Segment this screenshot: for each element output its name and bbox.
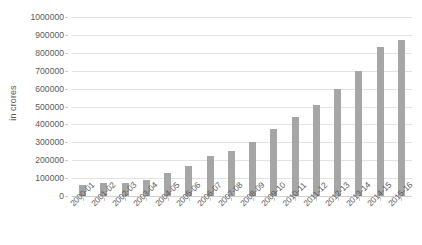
y-axis-tick-mark <box>65 160 68 161</box>
bar-slot <box>200 17 221 196</box>
bar-slot <box>391 17 412 196</box>
x-axis-tick-labels: 2000-012001-022002-032003-042004-052005-… <box>72 198 412 245</box>
bar-slot <box>178 17 199 196</box>
bar <box>334 89 341 196</box>
y-axis-tick-mark <box>65 71 68 72</box>
bar-slot <box>157 17 178 196</box>
bar-slot <box>327 17 348 196</box>
y-axis-tick-label: 500000 <box>35 102 64 112</box>
y-axis-tick-mark <box>65 142 68 143</box>
x-axis-slot: 2000-01 <box>72 198 93 245</box>
y-axis-tick-label: 700000 <box>35 66 64 76</box>
x-axis-slot: 2003-04 <box>136 198 157 245</box>
y-axis-tick-label: 900000 <box>35 30 64 40</box>
y-axis-tick-mark <box>65 17 68 18</box>
x-axis-slot: 2004-05 <box>157 198 178 245</box>
y-axis-tick-mark <box>65 107 68 108</box>
y-axis-tick-mark <box>65 178 68 179</box>
x-axis-slot: 2005-06 <box>178 198 199 245</box>
y-axis-tick-label: 600000 <box>35 84 64 94</box>
y-axis-tick-label: 400000 <box>35 119 64 129</box>
bar-series <box>72 17 412 196</box>
y-axis-tick-labels: 0100000200000300000400000500000600000700… <box>0 17 68 196</box>
y-axis-tick-label: 100000 <box>35 173 64 183</box>
bar-slot <box>72 17 93 196</box>
bar <box>377 47 384 196</box>
y-axis-tick-label: 1000000 <box>31 12 64 22</box>
y-axis-tick-label: 800000 <box>35 48 64 58</box>
x-axis-slot: 2009-10 <box>263 198 284 245</box>
y-axis-tick-mark <box>65 35 68 36</box>
x-axis-slot: 2013-14 <box>348 198 369 245</box>
x-axis-slot: 2012-13 <box>327 198 348 245</box>
y-axis-tick-mark <box>65 124 68 125</box>
bar-slot <box>93 17 114 196</box>
bar-slot <box>242 17 263 196</box>
x-axis-slot: 2014-15 <box>370 198 391 245</box>
bar <box>355 71 362 196</box>
bar-slot <box>221 17 242 196</box>
y-axis-tick-mark <box>65 89 68 90</box>
bar-slot <box>370 17 391 196</box>
bar-slot <box>263 17 284 196</box>
x-axis-slot: 2006-07 <box>200 198 221 245</box>
x-axis-slot: 2010-11 <box>285 198 306 245</box>
bar-slot <box>136 17 157 196</box>
y-axis-tick-mark <box>65 196 68 197</box>
x-axis-slot: 2011-12 <box>306 198 327 245</box>
bar-chart: in crores 010000020000030000040000050000… <box>0 0 422 245</box>
y-axis-tick-mark <box>65 53 68 54</box>
x-axis-slot: 2001-02 <box>93 198 114 245</box>
bar-slot <box>285 17 306 196</box>
y-axis-tick-label: 0 <box>59 191 64 201</box>
x-axis-slot: 2002-03 <box>115 198 136 245</box>
bar-slot <box>348 17 369 196</box>
x-axis-slot: 2007-08 <box>221 198 242 245</box>
x-axis-slot: 2008-09 <box>242 198 263 245</box>
bar <box>398 40 405 196</box>
plot-area <box>72 17 412 196</box>
bar-slot <box>306 17 327 196</box>
y-axis-tick-label: 200000 <box>35 155 64 165</box>
bar-slot <box>115 17 136 196</box>
x-axis-slot: 2015-16 <box>391 198 412 245</box>
y-axis-tick-label: 300000 <box>35 137 64 147</box>
